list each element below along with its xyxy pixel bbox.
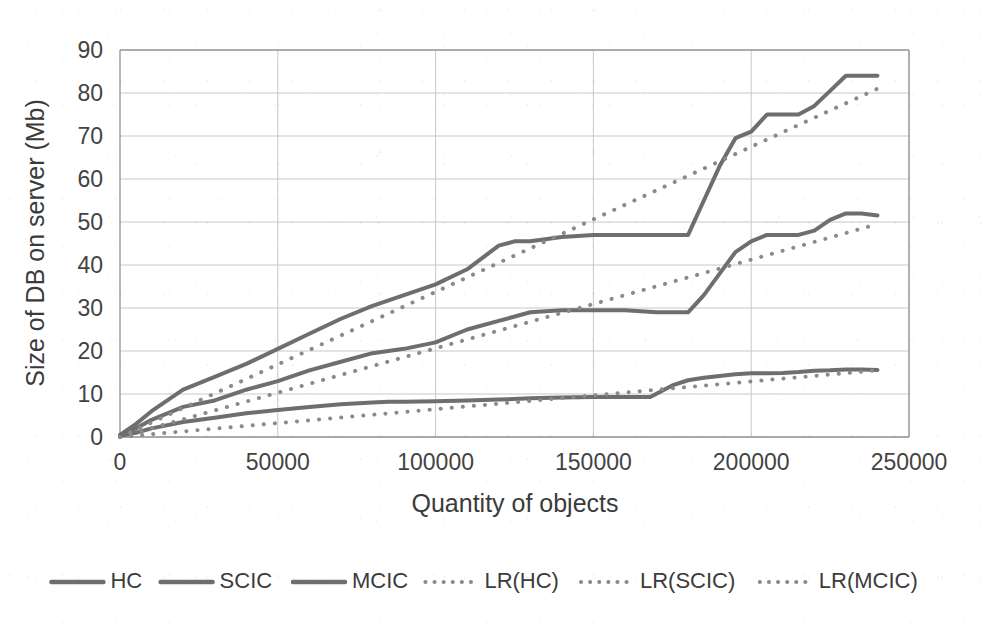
x-tick-label: 250000 bbox=[871, 449, 948, 475]
legend-label: MCIC bbox=[352, 568, 408, 593]
legend-label: LR(SCIC) bbox=[640, 568, 735, 593]
x-axis-title: Quantity of objects bbox=[411, 489, 618, 517]
y-tick-label: 70 bbox=[77, 123, 103, 149]
y-tick-label: 20 bbox=[77, 338, 103, 364]
y-tick-label: 50 bbox=[77, 209, 103, 235]
x-tick-label: 50000 bbox=[246, 449, 310, 475]
y-tick-label: 80 bbox=[77, 80, 103, 106]
legend-label: LR(HC) bbox=[484, 568, 559, 593]
chart-figure: 0102030405060708090 05000010000015000020… bbox=[0, 0, 983, 629]
y-tick-label: 40 bbox=[77, 252, 103, 278]
x-tick-label: 150000 bbox=[555, 449, 632, 475]
y-axis-title: Size of DB on server (Mb) bbox=[21, 99, 49, 387]
legend-label: HC bbox=[110, 568, 142, 593]
legend-label: LR(MCIC) bbox=[819, 568, 918, 593]
chart-background bbox=[0, 0, 983, 629]
x-tick-label: 0 bbox=[114, 449, 127, 475]
x-tick-label: 100000 bbox=[397, 449, 474, 475]
y-tick-label: 60 bbox=[77, 166, 103, 192]
y-tick-label: 0 bbox=[90, 424, 103, 450]
x-tick-label: 200000 bbox=[713, 449, 790, 475]
line-chart: 0102030405060708090 05000010000015000020… bbox=[0, 0, 983, 629]
y-tick-label: 30 bbox=[77, 295, 103, 321]
legend-label: SCIC bbox=[220, 568, 273, 593]
y-tick-label: 90 bbox=[77, 37, 103, 63]
y-tick-label: 10 bbox=[77, 381, 103, 407]
